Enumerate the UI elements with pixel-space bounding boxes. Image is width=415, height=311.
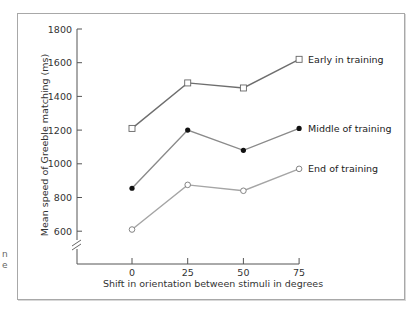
open-circle-marker xyxy=(241,188,247,194)
series-label: End of training xyxy=(308,163,378,174)
x-tick-label: 75 xyxy=(293,267,305,278)
series-middle-of-training: Middle of training xyxy=(129,123,391,191)
y-tick-label: 1400 xyxy=(48,91,72,102)
x-axis-label: Shift in orientation between stimuli in … xyxy=(103,278,323,289)
y-tick-label: 1800 xyxy=(48,24,72,35)
y-axis-label: Mean speed of Greeble matching (ms) xyxy=(39,54,50,236)
x-tick-label: 25 xyxy=(182,267,194,278)
square-marker xyxy=(185,80,191,86)
open-circle-marker xyxy=(185,182,191,188)
open-circle-marker xyxy=(296,166,302,172)
series-line xyxy=(132,59,299,128)
y-tick-label: 1000 xyxy=(48,158,72,169)
line-chart: 600800100012001400160018000255075 Early … xyxy=(0,0,415,311)
y-tick-label: 600 xyxy=(54,226,72,237)
series-group: Early in trainingMiddle of trainingEnd o… xyxy=(129,54,391,232)
square-marker xyxy=(240,85,246,91)
x-tick-label: 50 xyxy=(237,267,249,278)
y-tick-label: 1600 xyxy=(48,57,72,68)
series-label: Middle of training xyxy=(308,123,391,134)
y-tick-label: 1200 xyxy=(48,125,72,136)
square-marker xyxy=(129,125,135,131)
open-circle-marker xyxy=(129,227,135,233)
series-end-of-training: End of training xyxy=(129,163,378,232)
series-label: Early in training xyxy=(308,54,384,65)
filled-circle-marker xyxy=(241,148,246,153)
axes: 600800100012001400160018000255075 xyxy=(48,24,305,279)
filled-circle-marker xyxy=(297,126,302,131)
series-line xyxy=(132,169,299,230)
series-early-in-training: Early in training xyxy=(129,54,384,132)
y-tick-label: 800 xyxy=(54,192,72,203)
square-marker xyxy=(296,56,302,62)
filled-circle-marker xyxy=(129,186,134,191)
x-tick-label: 0 xyxy=(129,267,135,278)
filled-circle-marker xyxy=(185,128,190,133)
